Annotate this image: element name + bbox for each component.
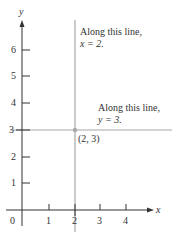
horizontal-line-annotation-1: Along this line,: [98, 102, 160, 113]
x-axis-arrow-icon: [147, 208, 154, 213]
point-label: (2, 3): [78, 133, 100, 145]
vertical-line-annotation-2: x = 2.: [79, 38, 104, 49]
coordinate-diagram: y x 0 1 2 3 4 1 2 3 4 5 6 (2, 3) Along t…: [0, 0, 174, 234]
y-ticks: [16, 50, 30, 183]
origin-label: 0: [10, 215, 15, 226]
x-tick-label: 1: [46, 215, 51, 226]
y-axis-label: y: [18, 6, 24, 17]
y-tick-label: 1: [11, 177, 16, 188]
horizontal-line-annotation-2: y = 3.: [97, 114, 122, 125]
x-tick-label: 4: [123, 215, 128, 226]
x-tick-label: 2: [72, 215, 77, 226]
y-tick-label: 5: [11, 70, 16, 81]
y-tick-label: 2: [11, 151, 16, 162]
vertical-line-annotation-1: Along this line,: [80, 26, 142, 37]
x-axis-label: x: [155, 204, 161, 215]
y-tick-label: 3: [9, 124, 14, 135]
y-axis-arrow-icon: [20, 20, 25, 27]
intersection-point: [73, 128, 77, 132]
diagram-canvas: y x 0 1 2 3 4 1 2 3 4 5 6 (2, 3) Along t…: [0, 0, 174, 234]
x-tick-label: 3: [97, 215, 102, 226]
y-tick-label: 6: [11, 44, 16, 55]
y-tick-label: 4: [11, 97, 16, 108]
